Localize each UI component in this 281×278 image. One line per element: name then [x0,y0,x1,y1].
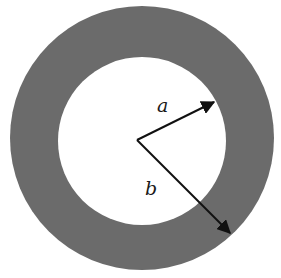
label-a: a [157,94,168,116]
annulus-diagram: a b [0,0,281,278]
label-b: b [145,177,157,199]
inner-hole [58,57,226,225]
